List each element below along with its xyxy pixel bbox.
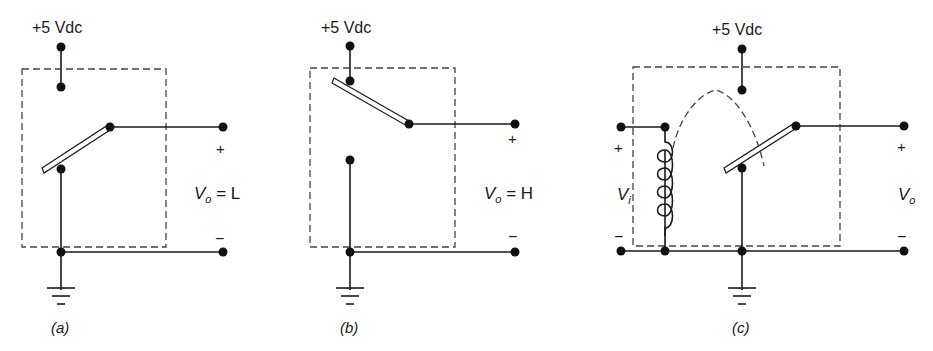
output-minus-terminal	[900, 247, 909, 256]
output-minus-terminal	[511, 248, 520, 257]
upper-contact	[738, 86, 747, 95]
output-voltage-label: Vo = H	[484, 184, 533, 205]
output-minus-terminal	[219, 248, 228, 257]
ground-icon	[336, 288, 364, 304]
panel-b: +5 Vdc + − Vo = H (b)	[310, 19, 533, 336]
supply-terminal	[738, 45, 747, 54]
supply-terminal	[57, 43, 66, 52]
plus-sign: +	[216, 140, 225, 157]
panel-c: +5 Vdc + − Vi + −	[614, 21, 915, 336]
coil-bottom-node	[661, 247, 670, 256]
input-plus-terminal	[617, 123, 626, 132]
input-minus-sign: −	[614, 228, 623, 245]
output-plus-terminal	[219, 123, 228, 132]
ground-node	[738, 247, 747, 256]
output-plus-terminal	[511, 120, 520, 129]
switch-blade	[332, 78, 409, 126]
switch-blade	[724, 124, 795, 173]
output-plus-terminal	[900, 122, 909, 131]
upper-contact	[346, 77, 355, 86]
minus-sign: −	[215, 230, 224, 247]
relay-switch-diagram: +5 Vdc + − Vo = L (a) +5 Vdc	[0, 0, 933, 351]
supply-label: +5 Vdc	[321, 19, 371, 36]
supply-label: +5 Vdc	[712, 21, 762, 38]
minus-sign: −	[897, 228, 906, 245]
ground-node	[346, 248, 355, 257]
supply-terminal	[346, 42, 355, 51]
plus-sign: +	[508, 130, 517, 147]
output-voltage-label: Vo	[898, 185, 915, 206]
relay-enclosure	[633, 67, 840, 246]
upper-contact	[57, 83, 66, 92]
panel-caption: (a)	[51, 319, 69, 336]
switch-blade	[42, 125, 110, 173]
ground-icon	[47, 288, 75, 304]
panel-caption: (c)	[732, 319, 750, 336]
switch-enclosure	[22, 69, 166, 247]
ground-node	[57, 248, 66, 257]
input-voltage-label: Vi	[617, 185, 631, 206]
switch-enclosure	[310, 68, 455, 247]
minus-sign: −	[508, 228, 517, 245]
plus-sign: +	[897, 138, 906, 155]
input-minus-terminal	[617, 247, 626, 256]
panel-a: +5 Vdc + − Vo = L (a)	[22, 19, 240, 336]
input-plus-sign: +	[614, 139, 623, 156]
output-voltage-label: Vo = L	[194, 184, 240, 205]
ground-icon	[728, 288, 756, 304]
supply-label: +5 Vdc	[32, 19, 82, 36]
panel-caption: (b)	[340, 319, 358, 336]
